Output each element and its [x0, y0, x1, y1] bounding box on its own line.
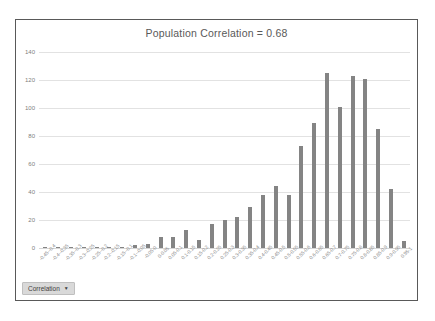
bar[interactable]	[299, 146, 303, 248]
bar-slot	[129, 52, 142, 248]
bar[interactable]	[223, 220, 227, 248]
bar-slot	[321, 52, 334, 248]
pivot-field-button-correlation[interactable]: Correlation ▼	[22, 282, 75, 295]
x-label-slot: 0.8-0.85	[359, 249, 372, 289]
y-axis-tick-label: 20	[28, 217, 35, 223]
x-label-slot: 0.25-0.3	[218, 249, 231, 289]
x-label-slot: -0.25--0.2	[90, 249, 103, 289]
bar-slot	[372, 52, 385, 248]
bar[interactable]	[351, 76, 355, 248]
bar-slot	[77, 52, 90, 248]
bar-slot	[397, 52, 410, 248]
y-axis-tick-label: 60	[28, 161, 35, 167]
x-label-slot: 0.55-0.6	[295, 249, 308, 289]
bar-slot	[205, 52, 218, 248]
x-label-slot: -0.2--0.15	[103, 249, 116, 289]
bar[interactable]	[363, 79, 367, 248]
bar[interactable]	[248, 207, 252, 248]
screenshot-root: Population Correlation = 0.68 0204060801…	[0, 0, 435, 321]
chevron-down-icon: ▼	[64, 286, 69, 291]
x-label-slot: 0-0.05	[154, 249, 167, 289]
x-label-slot: 0.05-0.1	[167, 249, 180, 289]
x-label-slot: 0.9-0.95	[385, 249, 398, 289]
bar[interactable]	[235, 217, 239, 248]
x-label-slot: 0.3-0.35	[231, 249, 244, 289]
bar-slot	[218, 52, 231, 248]
x-label-slot: 0.1-0.15	[180, 249, 193, 289]
bar[interactable]	[312, 123, 316, 248]
bar[interactable]	[184, 230, 188, 248]
bar-slot	[308, 52, 321, 248]
bar-slot	[65, 52, 78, 248]
x-label-slot: -0.1--0.05	[129, 249, 142, 289]
pivot-field-label: Correlation	[28, 285, 60, 292]
x-axis-labels: -0.45--0.4-0.4--0.35-0.35--0.3-0.3--0.25…	[39, 249, 410, 289]
x-label-slot: -0.05-0	[141, 249, 154, 289]
x-label-slot: 0.35-0.4	[244, 249, 257, 289]
bar-slot	[52, 52, 65, 248]
bar-slot	[90, 52, 103, 248]
bar[interactable]	[389, 189, 393, 248]
bar-slot	[193, 52, 206, 248]
bar[interactable]	[210, 224, 214, 248]
x-label-slot: 0.6-0.65	[308, 249, 321, 289]
x-label-slot: 0.2-0.25	[205, 249, 218, 289]
bar-slot	[116, 52, 129, 248]
bar-slot	[39, 52, 52, 248]
bar[interactable]	[325, 73, 329, 248]
bar-slot	[333, 52, 346, 248]
bar[interactable]	[376, 129, 380, 248]
y-axis-tick-label: 120	[25, 77, 35, 83]
bar-slot	[295, 52, 308, 248]
bar-slot	[154, 52, 167, 248]
y-axis-tick-label: 80	[28, 133, 35, 139]
x-label-slot: 0.65-0.7	[321, 249, 334, 289]
bar[interactable]	[338, 107, 342, 248]
chart-object-frame[interactable]: Population Correlation = 0.68 0204060801…	[15, 19, 418, 301]
x-label-slot: 0.75-0.8	[346, 249, 359, 289]
bar-slot	[244, 52, 257, 248]
bar-slot	[359, 52, 372, 248]
y-axis-tick-label: 40	[28, 189, 35, 195]
x-label-slot: 0.45-0.5	[269, 249, 282, 289]
x-label-slot: 0.5-0.55	[282, 249, 295, 289]
bar-slot	[180, 52, 193, 248]
x-label-slot: 0.85-0.9	[372, 249, 385, 289]
y-axis-tick-label: 0	[32, 245, 35, 251]
bar-series	[39, 52, 410, 248]
bar[interactable]	[287, 195, 291, 248]
x-label-slot: -0.3--0.25	[77, 249, 90, 289]
bar-slot	[103, 52, 116, 248]
bar[interactable]	[261, 195, 265, 248]
x-label-slot: -0.15--0.1	[116, 249, 129, 289]
plot-area: 020406080100120140	[39, 52, 410, 248]
bar-slot	[141, 52, 154, 248]
bar-slot	[385, 52, 398, 248]
x-label-slot: 0.15-0.2	[193, 249, 206, 289]
x-label-slot: 0.7-0.75	[333, 249, 346, 289]
y-axis-tick-label: 140	[25, 49, 35, 55]
chart-title[interactable]: Population Correlation = 0.68	[16, 27, 417, 39]
bar-slot	[257, 52, 270, 248]
y-axis-tick-label: 100	[25, 105, 35, 111]
bar[interactable]	[159, 237, 163, 248]
bar-slot	[346, 52, 359, 248]
x-label-slot: 0.4-0.45	[257, 249, 270, 289]
bar[interactable]	[274, 186, 278, 248]
x-label-slot: 0.95-1	[397, 249, 410, 289]
bar-slot	[269, 52, 282, 248]
bar-slot	[167, 52, 180, 248]
bar-slot	[231, 52, 244, 248]
bar-slot	[282, 52, 295, 248]
